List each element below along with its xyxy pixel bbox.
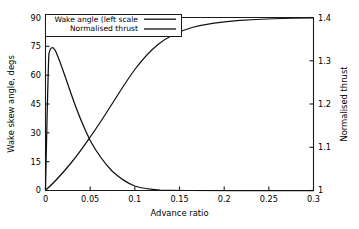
x-tick-label-02: 0.2 [218,194,231,204]
y2-axis-title: Normalised thrust [339,66,349,142]
right-tick-label-1-3: 1.3 [318,56,331,66]
right-tick-label-1-1: 1.1 [318,142,331,152]
x-tick-label-01: 0.1 [128,194,141,204]
left-tick-label-75: 75 [31,41,41,51]
chart-figure: 0 15 30 45 60 75 90 1 1.1 1.2 1.3 1.4 [0,0,359,229]
right-tick-label-1-4: 1.4 [318,13,331,23]
x-tick-label-03: 0.3 [307,194,320,204]
x-axis-title: Advance ratio [150,208,208,218]
left-tick-label-90: 90 [31,13,41,23]
chart-legend: Wake angle (left scale Normalised thrust [46,15,182,37]
chart-svg: 0 15 30 45 60 75 90 1 1.1 1.2 1.3 1.4 [0,0,359,229]
y-axis-title: Wake skew angle, degs [6,55,16,153]
left-tick-label-30: 30 [31,128,41,138]
left-tick-label-45: 45 [31,99,41,109]
right-tick-label-1-2: 1.2 [318,99,331,109]
left-tick-label-0: 0 [36,185,41,195]
left-tick-label-15: 15 [31,157,41,167]
x-tick-label-025: 0.25 [260,194,278,204]
legend-label-wake-angle: Wake angle (left scale [54,15,138,24]
left-tick-label-60: 60 [31,70,41,80]
x-tick-label-0: 0 [43,194,48,204]
x-tick-label-005: 0.05 [81,194,99,204]
x-tick-label-015: 0.15 [170,194,188,204]
legend-label-normalised-thrust: Normalised thrust [70,24,138,33]
